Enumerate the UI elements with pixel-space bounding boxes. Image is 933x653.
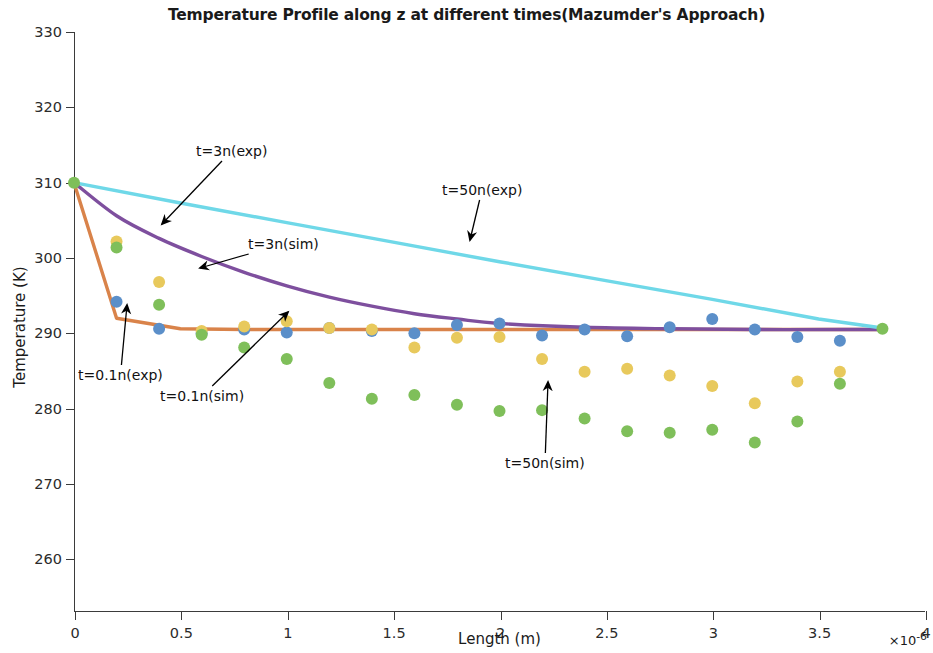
data-point xyxy=(706,380,718,392)
x-axis-tick xyxy=(181,611,182,620)
data-point xyxy=(281,327,293,339)
data-point xyxy=(451,332,463,344)
data-point xyxy=(664,427,676,439)
data-point xyxy=(706,424,718,436)
y-axis-tick-label: 330 xyxy=(34,24,62,40)
data-point xyxy=(111,241,123,253)
data-point xyxy=(536,404,548,416)
series-annotation-label: t=50n(sim) xyxy=(505,455,585,471)
series-annotation-label: t=0.1n(sim) xyxy=(160,388,244,404)
data-point xyxy=(791,331,803,343)
x-axis-tick xyxy=(501,611,502,620)
y-axis-tick-label: 310 xyxy=(34,175,62,191)
data-point xyxy=(408,342,420,354)
series-annotation-label: t=3n(exp) xyxy=(196,143,267,159)
data-point xyxy=(323,322,335,334)
data-point xyxy=(536,330,548,342)
data-point xyxy=(834,335,846,347)
data-point xyxy=(579,324,591,336)
data-point xyxy=(494,318,506,330)
data-point xyxy=(791,376,803,388)
data-point xyxy=(451,399,463,411)
x-multiplier-base: ×10 xyxy=(889,633,916,648)
data-point xyxy=(281,353,293,365)
x-axis-tick xyxy=(75,611,76,620)
x-axis-multiplier: ×10-6 xyxy=(889,630,927,648)
data-point xyxy=(153,299,165,311)
data-point xyxy=(323,377,335,389)
series-points xyxy=(111,241,846,448)
y-axis-tick-label: 300 xyxy=(34,250,62,266)
y-axis-title: Temperature (K) xyxy=(11,197,29,457)
data-point xyxy=(749,324,761,336)
data-point xyxy=(451,319,463,331)
series-annotation-label: t=50n(exp) xyxy=(442,182,522,198)
x-axis-tick xyxy=(394,611,395,620)
data-point xyxy=(366,324,378,336)
data-point xyxy=(281,315,293,327)
data-point xyxy=(664,369,676,381)
data-point xyxy=(834,366,846,378)
y-axis-tick-label: 280 xyxy=(34,401,62,417)
data-point xyxy=(621,425,633,437)
x-axis-title: Length (m) xyxy=(74,630,925,648)
data-point xyxy=(408,327,420,339)
data-point xyxy=(68,177,80,189)
data-point xyxy=(196,329,208,341)
chart-title: Temperature Profile along z at different… xyxy=(0,6,933,24)
data-point xyxy=(749,437,761,449)
data-point xyxy=(664,321,676,333)
data-point xyxy=(876,323,888,335)
data-point xyxy=(706,313,718,325)
series-annotation-label: t=0.1n(exp) xyxy=(78,367,163,383)
data-point xyxy=(238,342,250,354)
data-point xyxy=(494,405,506,417)
data-point xyxy=(111,296,123,308)
data-point xyxy=(579,366,591,378)
data-point xyxy=(408,389,420,401)
series-annotation-label: t=3n(sim) xyxy=(248,236,319,252)
data-point xyxy=(366,393,378,405)
data-point xyxy=(536,353,548,365)
data-point xyxy=(791,415,803,427)
data-point xyxy=(621,363,633,375)
y-axis-tick-label: 260 xyxy=(34,551,62,567)
chart-figure: Temperature Profile along z at different… xyxy=(0,0,933,653)
y-axis-tick-label: 320 xyxy=(34,99,62,115)
x-axis-tick xyxy=(713,611,714,620)
x-axis-tick xyxy=(607,611,608,620)
y-axis-tick-label: 270 xyxy=(34,476,62,492)
chart-canvas xyxy=(74,32,925,612)
data-point xyxy=(579,412,591,424)
plot-area xyxy=(74,32,925,612)
data-point xyxy=(153,276,165,288)
x-axis-tick xyxy=(820,611,821,620)
data-point xyxy=(153,323,165,335)
data-point xyxy=(834,378,846,390)
x-axis-tick xyxy=(926,611,927,620)
x-axis-tick xyxy=(288,611,289,620)
data-point xyxy=(494,331,506,343)
data-point xyxy=(749,397,761,409)
x-multiplier-exponent: -6 xyxy=(916,630,927,643)
data-point xyxy=(238,321,250,333)
y-axis-tick-label: 290 xyxy=(34,325,62,341)
data-point xyxy=(621,330,633,342)
